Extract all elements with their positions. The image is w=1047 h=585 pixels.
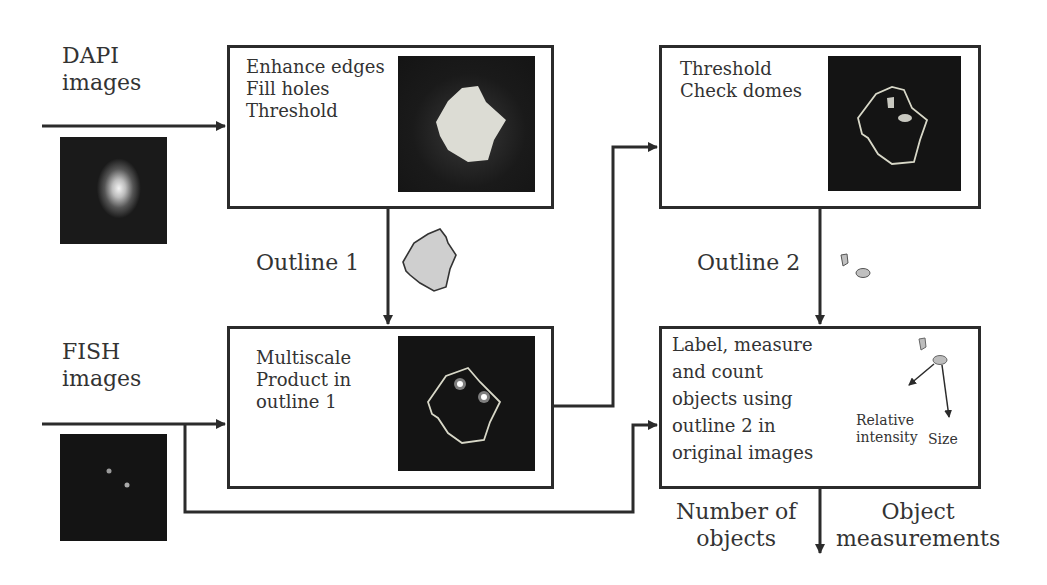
fish-label: FISH images <box>62 338 141 392</box>
enhance-image <box>398 56 535 192</box>
number-line-2: objects <box>676 525 796 552</box>
threshold-text: Threshold Check domes <box>680 58 802 102</box>
multiscale-to-threshold-arrow <box>553 147 657 406</box>
outline2-label: Outline 2 <box>697 249 800 276</box>
fish-label-line2: images <box>62 365 141 392</box>
enhance-line-1: Enhance edges <box>246 56 385 78</box>
fish-spots-icon <box>60 434 167 541</box>
outline1-label: Outline 1 <box>256 249 359 276</box>
enhance-box: Enhance edges Fill holes Threshold <box>227 45 554 209</box>
number-line-1: Number of <box>676 498 796 525</box>
dapi-label-line2: images <box>62 69 141 96</box>
measurements-line-1: Object <box>836 498 1000 525</box>
threshold-box: Threshold Check domes <box>659 45 981 209</box>
enhance-line-3: Threshold <box>246 100 385 122</box>
measurements-line-2: measurements <box>836 525 1000 552</box>
outline-with-domes-icon <box>828 56 961 191</box>
outline1-shape-icon <box>400 225 480 305</box>
dapi-image <box>60 137 167 244</box>
multiscale-line-1: Multiscale <box>256 347 351 369</box>
multiscale-line-2: Product in <box>256 369 351 391</box>
fish-label-line1: FISH <box>62 338 141 365</box>
multiscale-box: Multiscale Product in outline 1 <box>227 326 554 489</box>
label-measure-box: Label, measure and count objects using o… <box>659 326 981 489</box>
threshold-line-2: Check domes <box>680 80 802 102</box>
dapi-label-line1: DAPI <box>62 42 141 69</box>
multiscale-image <box>398 336 535 471</box>
measurement-arrows-icon <box>662 329 978 486</box>
enhance-line-2: Fill holes <box>246 78 385 100</box>
multiscale-text: Multiscale Product in outline 1 <box>256 347 351 413</box>
size-label: Size <box>928 431 958 448</box>
relative-line-1: Relative <box>856 412 918 429</box>
outline2-domes-icon <box>830 250 880 286</box>
number-of-objects-label: Number of objects <box>676 498 796 552</box>
threshold-image <box>828 56 961 191</box>
relative-intensity-label: Relative intensity <box>856 412 918 446</box>
enhance-text: Enhance edges Fill holes Threshold <box>246 56 385 122</box>
relative-line-2: intensity <box>856 429 918 446</box>
object-measurements-label: Object measurements <box>836 498 1000 552</box>
threshold-line-1: Threshold <box>680 58 802 80</box>
outline-with-spots-icon <box>398 336 535 471</box>
fish-image <box>60 434 167 541</box>
dapi-label: DAPI images <box>62 42 141 96</box>
filled-nucleus-icon <box>398 56 535 192</box>
multiscale-line-3: outline 1 <box>256 391 351 413</box>
